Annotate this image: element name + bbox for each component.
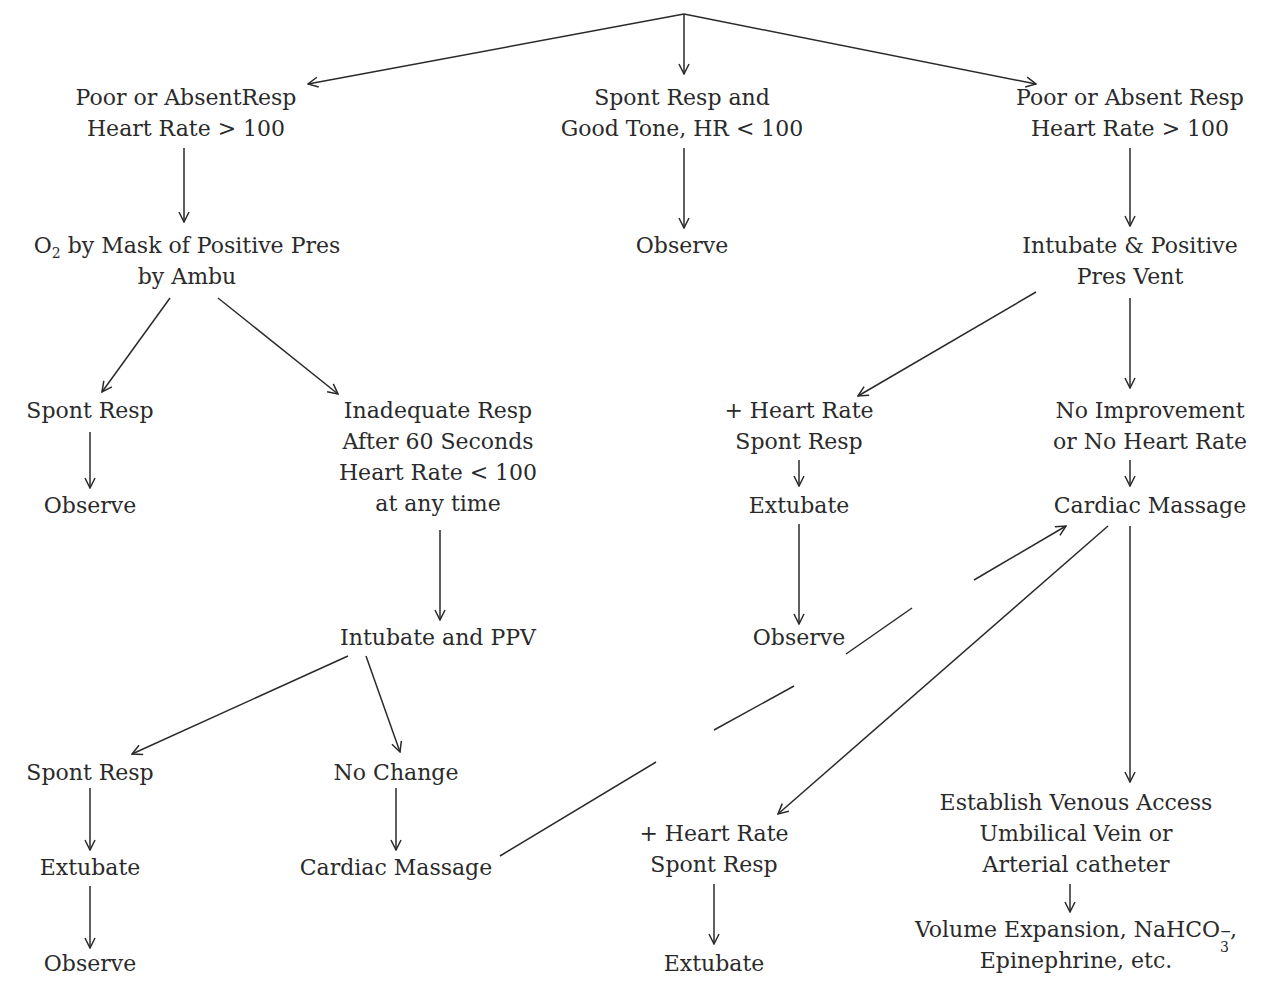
node-text: Poor or AbsentResp [76,82,297,113]
node-no-improvement: No Improvement or No Heart Rate [1053,395,1247,457]
node-volume-expansion: Volume Expansion, NaHCO−3, Epinephrine, … [915,914,1237,976]
node-venous-access: Establish Venous Access Umbilical Vein o… [940,787,1213,880]
node-intubate-ppv-right: Intubate & Positive Pres Vent [1022,230,1237,292]
node-text: + Heart Rate [639,818,788,849]
node-text: by Ambu [34,261,341,292]
node-text: Intubate & Positive [1022,230,1237,261]
node-spont-good-tone: Spont Resp and Good Tone, HR < 100 [561,82,804,144]
node-no-change: No Change [334,757,459,788]
node-text: Spont Resp [26,395,153,426]
node-observe-2: Observe [753,622,845,653]
node-observe-top: Observe [636,230,728,261]
node-text: Spont Resp [26,757,153,788]
node-text: Spont Resp [639,849,788,880]
node-text: Heart Rate > 100 [76,113,297,144]
edge-o2-to-inadequate [218,298,338,394]
node-text: Observe [753,622,845,653]
node-observe-3: Observe [44,948,136,979]
node-cardiac-massage-left: Cardiac Massage [300,852,492,883]
node-text: Good Tone, HR < 100 [561,113,804,144]
node-extubate-1: Extubate [749,490,850,521]
resuscitation-flowchart: Poor or AbsentResp Heart Rate > 100 Spon… [0,0,1268,987]
node-text: + Heart Rate [724,395,873,426]
node-spont-resp-2: Spont Resp [26,757,153,788]
node-text-part: by Mask of Positive Pres [61,233,341,258]
node-poor-resp-left: Poor or AbsentResp Heart Rate > 100 [76,82,297,144]
edge-ppv-to-spont2 [132,656,348,754]
node-text: Extubate [664,948,765,979]
edge-ppv-to-nochange [366,656,400,752]
node-text: or No Heart Rate [1053,426,1247,457]
node-text: Pres Vent [1022,261,1237,292]
node-extubate-2: Extubate [40,852,141,883]
node-text: Volume Expansion, NaHCO−3, [915,914,1237,945]
edge-root-left [308,14,684,84]
node-text: Cardiac Massage [1054,490,1246,521]
node-text: Cardiac Massage [300,852,492,883]
node-o2-mask: O2 by Mask of Positive Pres by Ambu [34,230,341,292]
node-hr-spont-1: + Heart Rate Spont Resp [724,395,873,457]
node-text: Intubate and PPV [340,622,536,653]
node-text: Observe [636,230,728,261]
edge-root-right [684,14,1036,84]
node-text: No Improvement [1053,395,1247,426]
node-text: Poor or Absent Resp [1016,82,1244,113]
node-extubate-3: Extubate [664,948,765,979]
node-text: Arterial catheter [940,849,1213,880]
node-text-part: Volume Expansion, NaHCO [915,917,1220,942]
node-text: Inadequate Resp [339,395,537,426]
edge-o2-to-spont [102,298,170,392]
node-text: Extubate [40,852,141,883]
edge-cardiac-to-hr2 [778,526,1108,814]
node-text-part: O [34,233,52,258]
node-text: No Change [334,757,459,788]
node-text: Observe [44,490,136,521]
node-text: Spont Resp [724,426,873,457]
subscript: 2 [52,245,61,261]
node-poor-resp-right: Poor or Absent Resp Heart Rate > 100 [1016,82,1244,144]
node-text: at any time [339,488,537,519]
node-spont-resp-1: Spont Resp [26,395,153,426]
node-text: Establish Venous Access [940,787,1213,818]
node-hr-spont-2: + Heart Rate Spont Resp [639,818,788,880]
node-text: Umbilical Vein or [940,818,1213,849]
node-intubate-ppv-left: Intubate and PPV [340,622,536,653]
node-text: Spont Resp and [561,82,804,113]
node-cardiac-massage-right: Cardiac Massage [1054,490,1246,521]
node-text: O2 by Mask of Positive Pres [34,230,341,261]
edge-intubate-to-hr [858,292,1036,396]
node-text: Epinephrine, etc. [915,945,1237,976]
node-text: Heart Rate > 100 [1016,113,1244,144]
node-text: Extubate [749,490,850,521]
node-text: Observe [44,948,136,979]
node-inadequate-resp: Inadequate Resp After 60 Seconds Heart R… [339,395,537,519]
node-observe-1: Observe [44,490,136,521]
node-text: Heart Rate < 100 [339,457,537,488]
node-text: After 60 Seconds [339,426,537,457]
